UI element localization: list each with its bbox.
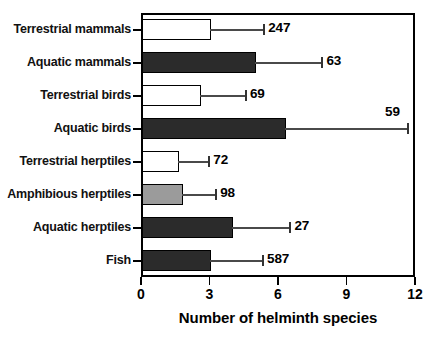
x-axis-tick-label: 6 <box>274 286 282 302</box>
error-bar-cap <box>215 189 217 200</box>
category-tick-mark <box>133 227 141 229</box>
bar <box>142 52 256 73</box>
error-bar-line <box>255 62 321 64</box>
bar <box>142 85 201 106</box>
bar <box>142 184 183 205</box>
x-axis-tick <box>414 277 416 285</box>
error-bar-cap <box>407 123 409 134</box>
bar <box>142 19 211 40</box>
bar <box>142 217 233 238</box>
error-bar-cap <box>289 222 291 233</box>
sample-size-label: 59 <box>385 104 400 119</box>
sample-size-label: 247 <box>268 20 290 35</box>
error-bar-line <box>232 227 289 229</box>
bar-row: 27 <box>0 211 439 244</box>
bar-row: 59 <box>0 112 439 145</box>
category-tick-mark <box>133 128 141 130</box>
category-tick-mark <box>133 62 141 64</box>
error-bar-cap <box>245 90 247 101</box>
category-tick-mark <box>133 260 141 262</box>
x-axis-tick-label: 12 <box>407 286 423 302</box>
bar-row: 587 <box>0 244 439 277</box>
x-axis-tick-label: 0 <box>137 286 145 302</box>
sample-size-label: 98 <box>220 185 235 200</box>
bar <box>142 118 286 139</box>
x-axis-tick <box>140 277 142 285</box>
bar <box>142 151 179 172</box>
helminth-species-bar-chart: Terrestrial mammalsAquatic mammalsTerres… <box>0 0 439 338</box>
error-bar-cap <box>262 255 264 266</box>
x-axis-tick-label: 9 <box>343 286 351 302</box>
error-bar-line <box>182 194 215 196</box>
bar-row: 69 <box>0 79 439 112</box>
bar-row: 72 <box>0 145 439 178</box>
bar-row: 247 <box>0 13 439 46</box>
sample-size-label: 587 <box>267 251 289 266</box>
category-tick-mark <box>133 29 141 31</box>
category-tick-mark <box>133 95 141 97</box>
x-axis-title: Number of helminth species <box>141 309 415 326</box>
x-axis-tick <box>346 277 348 285</box>
error-bar-line <box>210 29 264 31</box>
sample-size-label: 63 <box>326 53 341 68</box>
error-bar-cap <box>321 57 323 68</box>
x-axis-tick-label: 3 <box>206 286 214 302</box>
error-bar-line <box>210 260 263 262</box>
error-bar-line <box>200 95 245 97</box>
error-bar-line <box>178 161 209 163</box>
bar <box>142 250 211 271</box>
x-axis-tick <box>209 277 211 285</box>
sample-size-label: 27 <box>294 218 309 233</box>
bar-row: 98 <box>0 178 439 211</box>
error-bar-line <box>285 128 407 130</box>
error-bar-cap <box>263 24 265 35</box>
category-tick-mark <box>133 194 141 196</box>
category-tick-mark <box>133 161 141 163</box>
sample-size-label: 72 <box>213 152 228 167</box>
x-axis-tick <box>277 277 279 285</box>
error-bar-cap <box>208 156 210 167</box>
bar-row: 63 <box>0 46 439 79</box>
sample-size-label: 69 <box>250 86 265 101</box>
